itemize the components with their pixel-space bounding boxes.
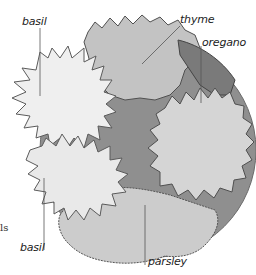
- label-thyme: thyme: [180, 14, 214, 25]
- label-parsley: parsley: [148, 256, 187, 267]
- edge-text-fragment: ls: [0, 223, 8, 233]
- label-basil-bottom: basil: [20, 242, 45, 253]
- label-basil-top: basil: [22, 16, 47, 27]
- label-oregano: oregano: [202, 37, 246, 48]
